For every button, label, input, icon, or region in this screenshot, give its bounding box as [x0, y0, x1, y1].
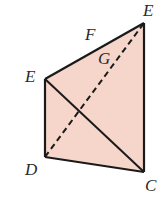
geometry-diagram: E F G E D C — [0, 0, 168, 203]
label-e-left: E — [24, 67, 36, 86]
label-d: D — [24, 160, 38, 179]
label-c: C — [145, 176, 157, 195]
label-e-top: E — [142, 1, 154, 20]
quadrilateral-fill — [45, 23, 144, 172]
label-f: F — [84, 25, 96, 44]
label-g: G — [98, 49, 110, 68]
